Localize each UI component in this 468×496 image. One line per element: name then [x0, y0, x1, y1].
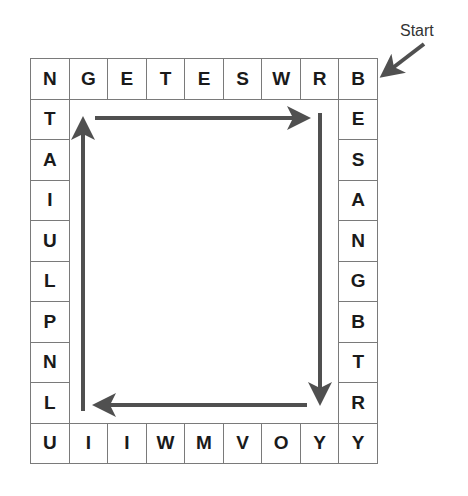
start-arrow-icon	[386, 44, 424, 73]
arrows-overlay	[0, 0, 468, 496]
